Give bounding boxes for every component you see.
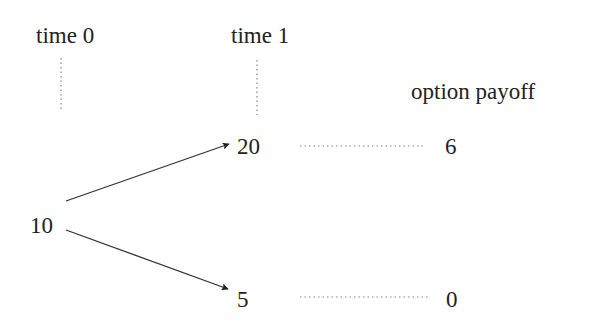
up-node-value: 20 [237, 135, 260, 158]
up-arrow [66, 144, 229, 201]
up-payoff-value: 6 [445, 135, 457, 158]
time0-label: time 0 [36, 24, 94, 47]
time1-label: time 1 [231, 24, 289, 47]
down-payoff-value: 0 [446, 288, 458, 311]
down-arrow [66, 230, 228, 289]
tree-lines [0, 0, 600, 324]
option-payoff-label: option payoff [411, 80, 535, 103]
root-node-value: 10 [30, 214, 53, 237]
down-node-value: 5 [237, 288, 249, 311]
